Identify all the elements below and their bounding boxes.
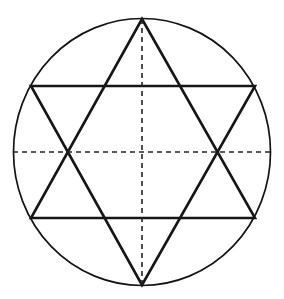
hexagram-diagram <box>0 0 284 299</box>
figure-container <box>0 0 284 299</box>
